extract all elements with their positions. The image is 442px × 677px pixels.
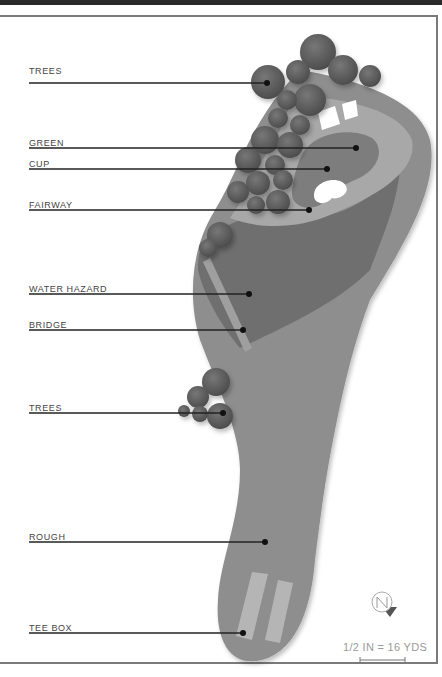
golf-hole-map: [0, 0, 442, 677]
label-bridge: BRIDGE: [29, 320, 67, 330]
scale-label: 1/2 IN = 16 YDS: [343, 641, 427, 653]
north-compass-icon: [372, 592, 397, 617]
label-cup: CUP: [29, 159, 50, 169]
label-trees-top: TREES: [29, 66, 62, 76]
label-trees-mid: TREES: [29, 403, 62, 413]
label-water-hazard: WATER HAZARD: [29, 284, 107, 294]
scale-bar: [360, 657, 405, 663]
label-green: GREEN: [29, 138, 64, 148]
label-tee-box: TEE BOX: [29, 623, 72, 633]
label-fairway: FAIRWAY: [29, 200, 73, 210]
label-rough: ROUGH: [29, 532, 66, 542]
